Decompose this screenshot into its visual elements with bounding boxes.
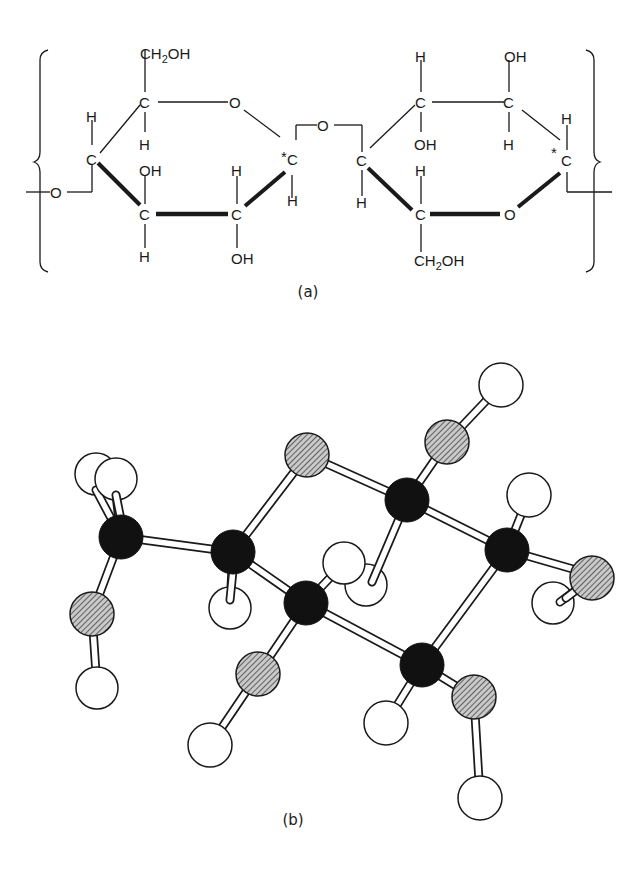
svg-text:C: C xyxy=(503,94,514,111)
svg-text:H: H xyxy=(503,136,514,153)
svg-text:H: H xyxy=(356,194,367,211)
hydrogen-atom xyxy=(532,582,574,624)
svg-text:H: H xyxy=(86,108,97,125)
svg-text:C: C xyxy=(561,152,572,169)
haworth-structure xyxy=(26,50,612,272)
svg-text:H: H xyxy=(231,162,242,179)
svg-text:C: C xyxy=(356,152,367,169)
svg-text:OH: OH xyxy=(231,250,254,267)
svg-text:C: C xyxy=(139,206,150,223)
hydrogen-atom xyxy=(188,723,232,767)
svg-text:H: H xyxy=(139,248,150,265)
left-bracket xyxy=(34,50,48,272)
svg-text:OH: OH xyxy=(414,136,437,153)
svg-text:OH: OH xyxy=(139,162,162,179)
figure-canvas: CH2OH C O H H C O OH C H H C OH * C H O … xyxy=(0,0,642,871)
caption-a: (a) xyxy=(298,283,319,301)
oxygen-atom xyxy=(236,652,280,696)
hydrogen-atom xyxy=(458,776,502,820)
atom-c: C xyxy=(139,94,150,111)
oxygen-atom xyxy=(570,556,614,600)
hydrogen-atom xyxy=(479,363,523,407)
carbon-atom xyxy=(211,530,255,574)
svg-text:C: C xyxy=(231,206,242,223)
svg-text:CH2OH: CH2OH xyxy=(414,252,464,272)
svg-text:H: H xyxy=(415,162,426,179)
oxygen-atom xyxy=(285,433,329,477)
svg-text:O: O xyxy=(317,117,329,134)
hydrogen-atom xyxy=(364,701,408,745)
carbon-atom xyxy=(99,515,143,559)
svg-text:C: C xyxy=(287,151,298,168)
svg-text:H: H xyxy=(561,110,572,127)
svg-text:H: H xyxy=(415,48,426,65)
svg-text:O: O xyxy=(504,206,516,223)
carbon-atom xyxy=(485,528,529,572)
svg-text:CH2OH: CH2OH xyxy=(140,45,190,65)
hydrogen-atom xyxy=(76,667,118,709)
carbon-atom xyxy=(284,581,328,625)
hydrogen-atom xyxy=(507,473,551,517)
svg-text:*: * xyxy=(551,144,557,161)
svg-text:C: C xyxy=(415,94,426,111)
oxygen-atom xyxy=(425,420,469,464)
svg-text:C: C xyxy=(415,206,426,223)
ball-and-stick-model xyxy=(70,363,614,820)
carbon-atom xyxy=(400,643,444,687)
svg-text:O: O xyxy=(50,184,62,201)
right-bracket xyxy=(586,50,600,272)
haworth-labels: CH2OH C O H H C O OH C H H C OH * C H O … xyxy=(50,45,572,272)
oxygen-atom xyxy=(70,592,114,636)
svg-text:H: H xyxy=(139,136,150,153)
hydrogen-atom xyxy=(323,542,365,584)
oxygen-atom xyxy=(452,675,496,719)
atom-o-ring: O xyxy=(229,94,241,111)
svg-text:OH: OH xyxy=(504,48,527,65)
bonds xyxy=(92,385,592,798)
caption-b: (b) xyxy=(282,811,303,829)
svg-text:C: C xyxy=(86,151,97,168)
carbon-atom xyxy=(385,478,429,522)
svg-text:H: H xyxy=(287,192,298,209)
